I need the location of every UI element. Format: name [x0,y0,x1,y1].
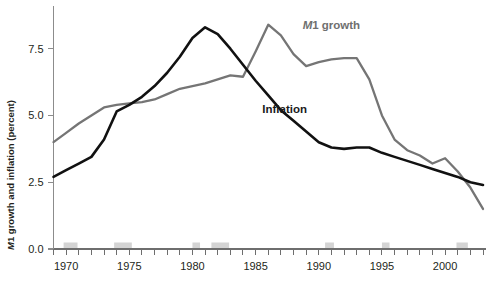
x-tick-label: 1985 [243,260,267,272]
x-tick-label: 1980 [180,260,204,272]
line-chart: 0.02.55.07.5 197019751980198519901995200… [0,0,489,287]
y-tick-label: 5.0 [28,109,43,121]
y-tick-label: 7.5 [28,43,43,55]
y-tick-label: 0.0 [28,243,43,255]
recession-band [325,243,334,250]
x-tick-label: 2000 [433,260,457,272]
recession-band [456,243,467,250]
recession-band [114,243,132,250]
series-label-m1-growth: M1 growth [303,19,361,31]
series-line-m1-growth [54,25,484,209]
x-axis-ticks: 1970197519801985199019952000 [54,249,484,272]
recession-band [211,243,229,250]
y-axis-ticks: 0.02.55.07.5 [28,43,53,255]
recession-band [64,243,78,250]
recession-band [382,243,390,250]
chart-axes [54,6,487,249]
recession-band [192,243,200,250]
x-tick-label: 1995 [370,260,394,272]
y-axis-title: M1 growth and inflation (percent) [5,100,16,250]
x-tick-label: 1970 [54,260,78,272]
x-tick-label: 1975 [117,260,141,272]
y-tick-label: 2.5 [28,176,43,188]
recession-bands [64,243,468,250]
data-series [54,25,484,209]
chart-figure: 0.02.55.07.5 197019751980198519901995200… [0,0,489,287]
x-tick-label: 1990 [307,260,331,272]
series-label-inflation: Inflation [262,103,307,115]
